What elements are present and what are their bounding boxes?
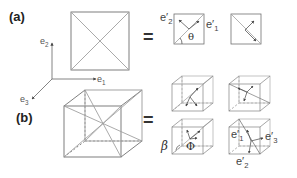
label-e-prime-2-b: e′2	[236, 156, 248, 170]
equals-sign-b: =	[143, 111, 154, 129]
square-a	[71, 12, 129, 70]
small-square-a2	[231, 14, 261, 44]
small-cube-b1	[172, 76, 213, 111]
axis-label-e1: e1	[97, 75, 106, 86]
label-theta: θ	[188, 32, 194, 42]
coordinate-axes	[32, 43, 96, 99]
panel-label-a: (a)	[9, 10, 25, 23]
label-e-prime-1-b: e′1	[231, 129, 243, 143]
label-phi: Φ	[186, 141, 195, 152]
label-e-prime-2-a: e′2	[160, 12, 172, 26]
small-cube-b2	[229, 76, 270, 111]
label-beta: β	[161, 140, 168, 152]
axis-label-e3: e3	[20, 95, 29, 106]
cube-b	[64, 90, 142, 157]
label-e-prime-3-b: e′3	[265, 131, 277, 145]
label-e-prime-1-a: e′1	[206, 19, 218, 33]
axis-label-e2: e2	[40, 37, 49, 48]
panel-label-b: (b)	[16, 111, 33, 124]
equals-sign-a: =	[143, 28, 154, 46]
